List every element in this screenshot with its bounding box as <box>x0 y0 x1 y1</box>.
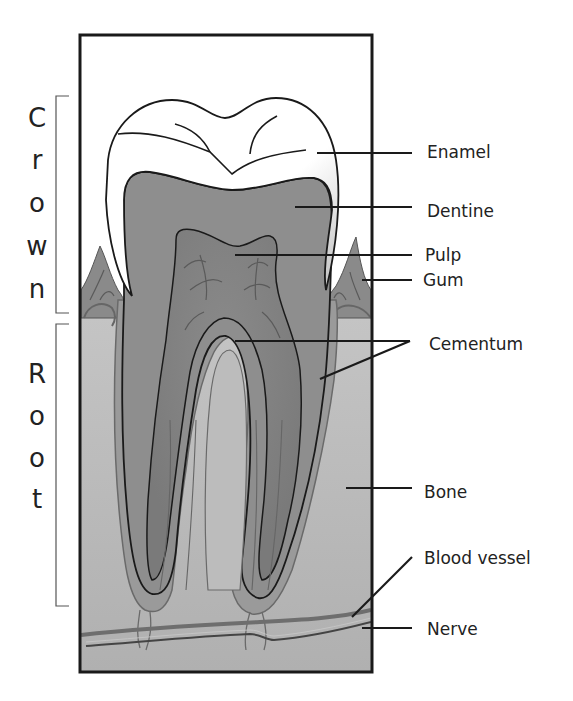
label-bone: Bone <box>424 482 467 502</box>
crown-letter-c: C <box>28 103 46 133</box>
label-pulp: Pulp <box>425 245 461 265</box>
tooth-diagram: C r o w n R o o t Enamel Dentine Pulp Gu… <box>0 0 573 701</box>
label-enamel: Enamel <box>427 142 491 162</box>
label-gum: Gum <box>423 270 464 290</box>
crown-letter-n: n <box>29 274 45 304</box>
label-nerve: Nerve <box>427 619 478 639</box>
label-dentine: Dentine <box>427 201 494 221</box>
root-letter-r: R <box>28 359 46 389</box>
label-blood-vessel: Blood vessel <box>424 548 531 568</box>
crown-letter-r: r <box>32 145 43 175</box>
root-letter-t: t <box>32 484 42 514</box>
root-bracket <box>56 324 69 606</box>
crown-label: C r o w n <box>26 103 47 304</box>
root-letter-o2: o <box>29 443 45 473</box>
labels: Enamel Dentine Pulp Gum Cementum Bone Bl… <box>423 142 531 639</box>
label-cementum: Cementum <box>429 334 523 354</box>
crown-letter-w: w <box>26 231 47 261</box>
root-label: R o o t <box>28 359 46 514</box>
root-letter-o1: o <box>29 401 45 431</box>
crown-bracket <box>56 96 69 313</box>
crown-letter-o: o <box>29 188 45 218</box>
